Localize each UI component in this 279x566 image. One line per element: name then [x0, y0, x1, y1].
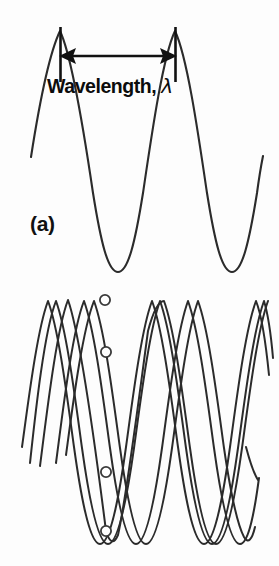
wavelength-annotation-text: Wavelength,	[47, 75, 161, 97]
wavelength-annotation-label: Wavelength, λ	[47, 76, 173, 97]
wave-tail-segment-b	[246, 447, 258, 480]
wave-marker-3	[101, 467, 111, 477]
wave-curve-a	[31, 31, 263, 272]
panel-b: (b)	[0, 283, 279, 566]
wave-marker-2	[101, 347, 111, 357]
wave-marker-4	[101, 526, 111, 536]
lambda-symbol: λ	[161, 74, 172, 98]
figure-root: Wavelength, λ (a) (b)	[0, 0, 279, 566]
panel-label-a: (a)	[30, 213, 55, 234]
panel-a-wave-canvas	[0, 0, 279, 283]
panel-b-wave-canvas	[0, 283, 279, 566]
wave-marker-1	[100, 295, 110, 305]
panel-a: Wavelength, λ (a)	[0, 0, 279, 283]
